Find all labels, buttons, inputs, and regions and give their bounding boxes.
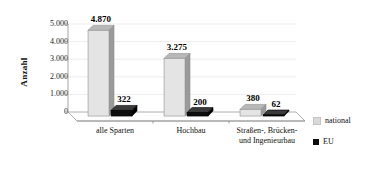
legend-swatch-icon [313, 117, 321, 125]
bar-chart: Anzahl 01.0002.0003.0004.0005.000 4.8703… [0, 0, 376, 171]
value-label-eu: 200 [178, 97, 222, 107]
x-axis-category-label-line: und Ingenieurbau [212, 136, 322, 146]
value-label-eu: 62 [254, 99, 298, 109]
bar-national-front-face [164, 58, 185, 116]
value-label-national: 3.275 [155, 42, 199, 52]
chart-legend: nationalEU [313, 116, 351, 158]
x-axis-category-label-line: Straßen-, Brücken- [212, 126, 322, 136]
bar-national-front-face [240, 109, 261, 116]
bar-eu-front-face [187, 113, 208, 117]
legend-item-national[interactable]: national [313, 116, 351, 126]
x-axis-category-label: Straßen-, Brücken-und Ingenieurbau [212, 126, 322, 146]
bar-eu-front-face [263, 115, 284, 116]
legend-label: EU [323, 138, 334, 146]
value-label-eu: 322 [102, 94, 146, 104]
legend-swatch-icon [313, 139, 319, 145]
bar-national-side-face [185, 53, 190, 116]
legend-label: national [325, 117, 351, 125]
bar-eu-front-face [111, 110, 132, 116]
legend-item-eu[interactable]: EU [313, 137, 351, 147]
value-label-national: 4.870 [79, 14, 123, 24]
